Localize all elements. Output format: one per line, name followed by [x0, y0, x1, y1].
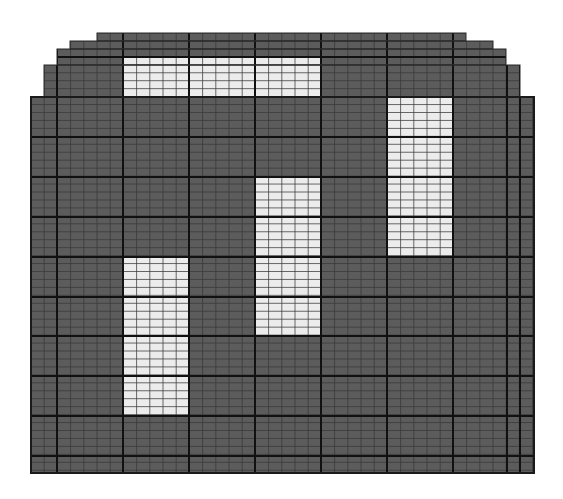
wafer-map [0, 0, 563, 499]
highlight-block-top [123, 57, 321, 97]
